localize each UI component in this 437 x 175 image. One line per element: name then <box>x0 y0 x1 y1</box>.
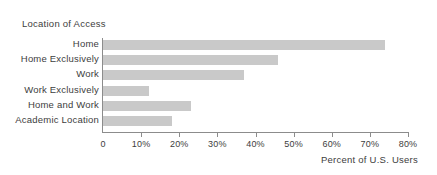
tick-mark <box>179 133 180 137</box>
bar-chart: Location of Access HomeHome ExclusivelyW… <box>0 0 437 175</box>
tick-mark <box>294 133 295 137</box>
tick-label: 70% <box>361 139 380 149</box>
bar <box>103 101 191 111</box>
category-label: Home Exclusively <box>0 53 99 64</box>
category-label: Work Exclusively <box>0 84 99 95</box>
category-label: Home <box>0 38 99 49</box>
category-label: Home and Work <box>0 99 99 110</box>
tick-mark <box>217 133 218 137</box>
tick-label: 20% <box>170 139 189 149</box>
tick-mark <box>370 133 371 137</box>
bar <box>103 70 244 80</box>
tick-mark <box>256 133 257 137</box>
bar <box>103 86 149 96</box>
category-label: Academic Location <box>0 114 99 125</box>
tick-label: 40% <box>246 139 265 149</box>
tick-mark <box>408 133 409 137</box>
tick-label: 50% <box>284 139 303 149</box>
bar <box>103 116 172 126</box>
tick-label: 30% <box>208 139 227 149</box>
tick-label: 10% <box>132 139 151 149</box>
tick-label: 0 <box>100 139 105 149</box>
category-label: Work <box>0 68 99 79</box>
tick-label: 60% <box>322 139 341 149</box>
tick-mark <box>141 133 142 137</box>
tick-mark <box>332 133 333 137</box>
x-axis-label: Percent of U.S. Users <box>321 154 418 165</box>
bar <box>103 55 278 65</box>
bar <box>103 40 385 50</box>
chart-title: Location of Access <box>22 18 106 29</box>
tick-label: 80% <box>399 139 418 149</box>
